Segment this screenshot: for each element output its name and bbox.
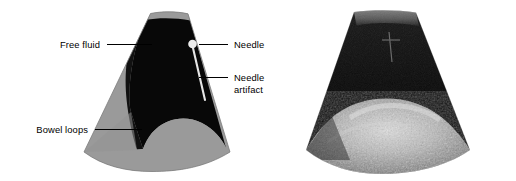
needle-tip-dot xyxy=(188,40,197,49)
label-free-fluid: Free fluid xyxy=(60,39,100,50)
schematic-drawing: Free fluid Needle Needle artifact Bowel … xyxy=(0,0,258,181)
us-global-speckle xyxy=(298,5,478,180)
ultrasound-figure: Free fluid Needle Needle artifact Bowel … xyxy=(0,0,516,181)
schematic-panel: Free fluid Needle Needle artifact Bowel … xyxy=(0,0,258,181)
ultrasound-panel xyxy=(258,0,516,181)
ultrasound-sector-fan xyxy=(80,8,238,176)
ultrasound-image xyxy=(258,0,516,181)
label-bowel-loops: Bowel loops xyxy=(36,124,88,135)
ultrasound-sector-content xyxy=(298,5,478,180)
